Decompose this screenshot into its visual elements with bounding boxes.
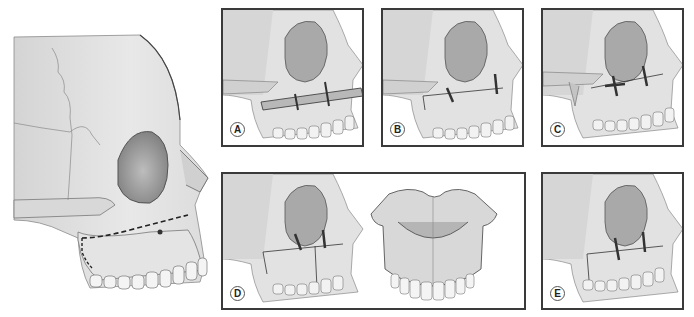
panel-e: E: [541, 172, 684, 310]
maxilla-inferior-view: [371, 189, 497, 300]
main-skull-illustration: [0, 0, 220, 317]
panel-label-e: E: [550, 286, 565, 301]
panel-label-a: A: [230, 122, 245, 137]
panel-a: A: [221, 8, 364, 147]
skull-fixation-d-illustration: [223, 174, 526, 310]
panel-label-b: B: [390, 122, 405, 137]
panel-label-d: D: [230, 286, 245, 301]
panel-label-c: C: [550, 122, 565, 137]
panel-c: C: [541, 8, 684, 147]
panel-d: D: [221, 172, 526, 310]
panel-b: B: [381, 8, 524, 147]
